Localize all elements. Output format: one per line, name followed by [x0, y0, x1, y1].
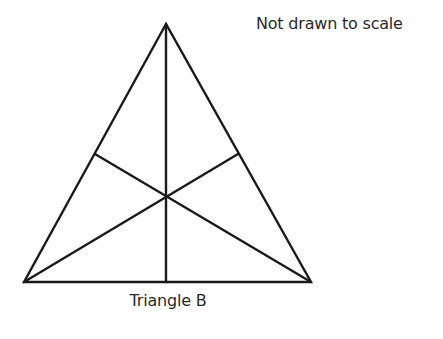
diagram-canvas: Not drawn to scale Triangle B — [0, 0, 443, 339]
triangle-figure — [0, 0, 443, 339]
triangle-caption: Triangle B — [120, 291, 216, 310]
cevian-from-left-vertex — [24, 154, 238, 282]
not-to-scale-note: Not drawn to scale — [256, 14, 403, 33]
cevian-from-right-vertex — [95, 154, 311, 282]
triangle-outline — [24, 24, 311, 282]
